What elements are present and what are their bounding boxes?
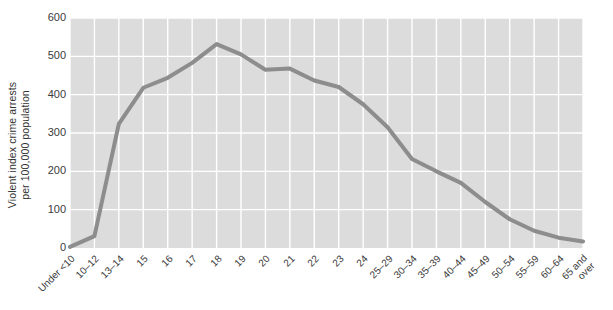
x-axis-tick-label: 30–34 xyxy=(391,253,418,280)
chart-container: Violent index crime arrests per 100,000 … xyxy=(0,0,613,310)
x-axis-tick-label: 23 xyxy=(330,253,346,269)
x-axis-tick-label: 13–14 xyxy=(98,253,125,280)
x-axis-tick-label: 17 xyxy=(183,253,199,269)
x-axis-tick-label: 16 xyxy=(159,253,175,269)
x-axis-tick-label: 24 xyxy=(354,253,370,269)
x-axis-tick-label: 45–49 xyxy=(465,253,492,280)
x-axis-tick-label: 22 xyxy=(305,253,321,269)
x-axis-tick-label: 35–39 xyxy=(416,253,443,280)
x-axis-tick-label: Under <10 xyxy=(36,253,77,294)
x-axis-tick-label: 10–12 xyxy=(74,253,101,280)
x-axis-tick-label: 19 xyxy=(232,253,248,269)
x-axis-tick-label: 55–59 xyxy=(513,253,540,280)
x-axis-tick-label: 65 and over xyxy=(560,253,596,289)
x-axis-tick-label: 50–54 xyxy=(489,253,516,280)
x-axis-tick-label: 18 xyxy=(208,253,224,269)
x-axis-tick-labels: Under <1010–1213–14151617181920212223242… xyxy=(0,0,613,310)
x-axis-tick-label: 40–44 xyxy=(440,253,467,280)
x-axis-tick-label: 21 xyxy=(281,253,297,269)
x-axis-tick-label: 25–29 xyxy=(367,253,394,280)
x-axis-tick-label: 15 xyxy=(134,253,150,269)
x-axis-tick-label: 20 xyxy=(257,253,273,269)
